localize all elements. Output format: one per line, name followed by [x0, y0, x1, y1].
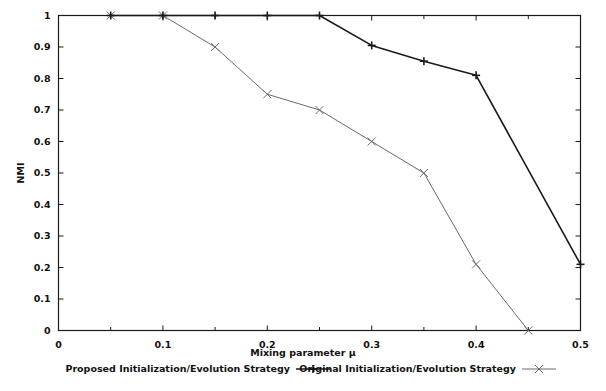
y-axis-tick-label: 0.3 — [34, 230, 51, 241]
series-cross — [107, 12, 533, 335]
y-axis-tick-label: 0.7 — [34, 104, 51, 115]
y-axis-tick-label: 0.5 — [34, 167, 51, 178]
series-line — [111, 16, 529, 331]
legend-label: Proposed Initialization/Evolution Strate… — [65, 363, 290, 374]
x-axis-tick-label: 0.3 — [363, 339, 380, 350]
y-axis-title: NMI — [15, 163, 26, 184]
y-axis-tick-label: 1 — [44, 10, 51, 21]
chart-canvas: 00.10.20.30.40.50.60.70.80.9100.10.20.30… — [0, 0, 606, 391]
y-axis-tick-label: 0.4 — [34, 199, 51, 210]
x-axis-tick-label: 0.4 — [468, 339, 485, 350]
x-axis-tick-label: 0.1 — [154, 339, 171, 350]
plot-frame — [59, 16, 581, 331]
legend-entry-0: Proposed Initialization/Evolution Strate… — [65, 363, 330, 374]
y-axis-tick-label: 0.6 — [34, 136, 51, 147]
legend-label: Original Initialization/Evolution Strate… — [299, 363, 516, 374]
y-axis-tick-label: 0.8 — [34, 73, 51, 84]
x-axis-tick-label: 0 — [55, 339, 62, 350]
y-axis-tick-label: 0 — [44, 325, 51, 336]
y-axis-tick-label: 0.2 — [34, 262, 51, 273]
series-plus — [107, 12, 585, 269]
x-axis-title: Mixing parameter μ — [250, 347, 356, 358]
legend-entry-1: Original Initialization/Evolution Strate… — [299, 363, 556, 374]
y-axis-tick-label: 0.1 — [34, 293, 51, 304]
y-axis-tick-label: 0.9 — [34, 41, 51, 52]
chart-figure: 00.10.20.30.40.50.60.70.80.9100.10.20.30… — [0, 0, 606, 391]
series-line — [111, 16, 581, 265]
x-axis-tick-label: 0.5 — [572, 339, 589, 350]
